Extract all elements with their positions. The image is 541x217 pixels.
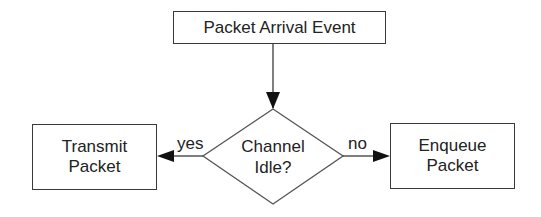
packet-arrival-event-label: Packet Arrival Event — [203, 18, 355, 38]
enqueue-packet-node: Enqueue Packet — [390, 123, 515, 189]
enqueue-line2: Packet — [427, 156, 479, 176]
decision-line1: Channel — [223, 136, 323, 157]
channel-idle-decision-text: Channel Idle? — [223, 136, 323, 178]
transmit-line2: Packet — [69, 157, 121, 177]
decision-line2: Idle? — [223, 157, 323, 178]
transmit-packet-node: Transmit Packet — [32, 124, 157, 190]
packet-arrival-event-node: Packet Arrival Event — [173, 11, 386, 44]
transmit-line1: Transmit — [62, 137, 128, 157]
enqueue-line1: Enqueue — [418, 136, 486, 156]
edge-label-yes: yes — [177, 134, 203, 154]
edge-label-no: no — [348, 134, 367, 154]
